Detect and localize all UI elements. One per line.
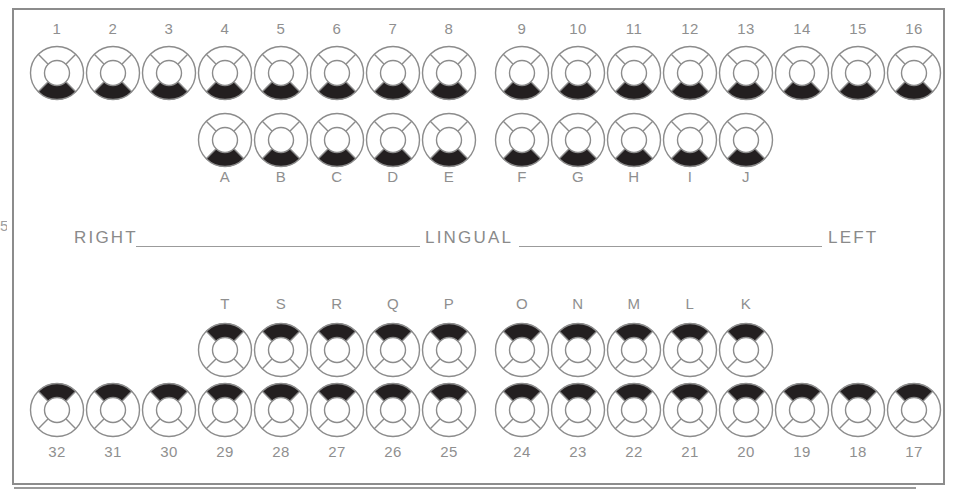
tooth-O[interactable] — [494, 322, 550, 378]
tooth-surface-center[interactable] — [734, 128, 759, 153]
tooth-surface-center[interactable] — [510, 398, 535, 423]
tooth-14[interactable] — [774, 45, 830, 101]
tooth-Q[interactable] — [365, 322, 421, 378]
tooth-10[interactable] — [550, 45, 606, 101]
tooth-20[interactable] — [718, 382, 774, 438]
tooth-J[interactable] — [718, 112, 774, 168]
tooth-surface-center[interactable] — [437, 398, 462, 423]
tooth-26[interactable] — [365, 382, 421, 438]
tooth-21[interactable] — [662, 382, 718, 438]
tooth-16[interactable] — [886, 45, 942, 101]
tooth-A[interactable] — [197, 112, 253, 168]
tooth-surface-center[interactable] — [213, 338, 238, 363]
tooth-23[interactable] — [550, 382, 606, 438]
tooth-19[interactable] — [774, 382, 830, 438]
tooth-surface-center[interactable] — [213, 398, 238, 423]
tooth-surface-center[interactable] — [510, 338, 535, 363]
tooth-R[interactable] — [309, 322, 365, 378]
tooth-7[interactable] — [365, 45, 421, 101]
tooth-8[interactable] — [421, 45, 477, 101]
tooth-surface-center[interactable] — [566, 128, 591, 153]
tooth-surface-center[interactable] — [734, 338, 759, 363]
tooth-surface-center[interactable] — [381, 128, 406, 153]
tooth-31[interactable] — [85, 382, 141, 438]
tooth-surface-center[interactable] — [45, 61, 70, 86]
tooth-C[interactable] — [309, 112, 365, 168]
tooth-M[interactable] — [606, 322, 662, 378]
tooth-5[interactable] — [253, 45, 309, 101]
tooth-T[interactable] — [197, 322, 253, 378]
tooth-11[interactable] — [606, 45, 662, 101]
tooth-L[interactable] — [662, 322, 718, 378]
tooth-surface-center[interactable] — [269, 61, 294, 86]
tooth-P[interactable] — [421, 322, 477, 378]
tooth-surface-center[interactable] — [381, 338, 406, 363]
tooth-N[interactable] — [550, 322, 606, 378]
tooth-surface-center[interactable] — [902, 398, 927, 423]
tooth-24[interactable] — [494, 382, 550, 438]
tooth-15[interactable] — [830, 45, 886, 101]
tooth-surface-center[interactable] — [566, 61, 591, 86]
tooth-surface-center[interactable] — [381, 398, 406, 423]
tooth-surface-center[interactable] — [566, 398, 591, 423]
tooth-I[interactable] — [662, 112, 718, 168]
tooth-12[interactable] — [662, 45, 718, 101]
tooth-surface-center[interactable] — [790, 398, 815, 423]
tooth-surface-center[interactable] — [790, 61, 815, 86]
tooth-surface-center[interactable] — [510, 128, 535, 153]
tooth-surface-center[interactable] — [325, 128, 350, 153]
tooth-18[interactable] — [830, 382, 886, 438]
tooth-1[interactable] — [29, 45, 85, 101]
tooth-E[interactable] — [421, 112, 477, 168]
tooth-surface-center[interactable] — [902, 61, 927, 86]
tooth-surface-center[interactable] — [101, 61, 126, 86]
tooth-surface-center[interactable] — [437, 338, 462, 363]
tooth-27[interactable] — [309, 382, 365, 438]
tooth-surface-center[interactable] — [101, 398, 126, 423]
tooth-surface-center[interactable] — [622, 398, 647, 423]
tooth-surface-center[interactable] — [325, 338, 350, 363]
tooth-surface-center[interactable] — [734, 61, 759, 86]
tooth-29[interactable] — [197, 382, 253, 438]
tooth-22[interactable] — [606, 382, 662, 438]
tooth-B[interactable] — [253, 112, 309, 168]
tooth-surface-center[interactable] — [437, 128, 462, 153]
tooth-surface-center[interactable] — [381, 61, 406, 86]
tooth-surface-center[interactable] — [622, 338, 647, 363]
tooth-17[interactable] — [886, 382, 942, 438]
tooth-surface-center[interactable] — [566, 338, 591, 363]
tooth-6[interactable] — [309, 45, 365, 101]
tooth-H[interactable] — [606, 112, 662, 168]
tooth-32[interactable] — [29, 382, 85, 438]
tooth-surface-center[interactable] — [678, 338, 703, 363]
tooth-surface-center[interactable] — [325, 398, 350, 423]
tooth-surface-center[interactable] — [157, 398, 182, 423]
tooth-surface-center[interactable] — [622, 128, 647, 153]
tooth-4[interactable] — [197, 45, 253, 101]
tooth-surface-center[interactable] — [269, 128, 294, 153]
tooth-surface-center[interactable] — [269, 338, 294, 363]
tooth-surface-center[interactable] — [678, 128, 703, 153]
tooth-surface-center[interactable] — [325, 61, 350, 86]
tooth-2[interactable] — [85, 45, 141, 101]
tooth-surface-center[interactable] — [678, 398, 703, 423]
tooth-3[interactable] — [141, 45, 197, 101]
tooth-surface-center[interactable] — [213, 61, 238, 86]
tooth-surface-center[interactable] — [45, 398, 70, 423]
tooth-9[interactable] — [494, 45, 550, 101]
tooth-13[interactable] — [718, 45, 774, 101]
tooth-surface-center[interactable] — [510, 61, 535, 86]
tooth-surface-center[interactable] — [622, 61, 647, 86]
tooth-D[interactable] — [365, 112, 421, 168]
tooth-surface-center[interactable] — [846, 398, 871, 423]
tooth-surface-center[interactable] — [846, 61, 871, 86]
tooth-surface-center[interactable] — [269, 398, 294, 423]
tooth-surface-center[interactable] — [437, 61, 462, 86]
tooth-surface-center[interactable] — [678, 61, 703, 86]
tooth-28[interactable] — [253, 382, 309, 438]
tooth-surface-center[interactable] — [157, 61, 182, 86]
tooth-25[interactable] — [421, 382, 477, 438]
tooth-G[interactable] — [550, 112, 606, 168]
tooth-30[interactable] — [141, 382, 197, 438]
tooth-K[interactable] — [718, 322, 774, 378]
